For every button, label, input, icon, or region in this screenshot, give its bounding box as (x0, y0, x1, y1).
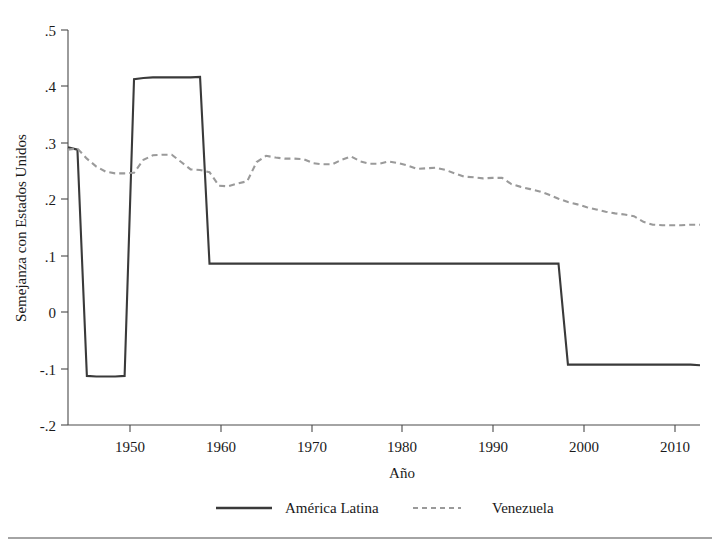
y-tick-label: -.1 (40, 362, 56, 378)
line-chart: Semejanza con Estados Unidos .5 .4 .3 .2… (0, 0, 720, 546)
series-line-america-latina (68, 77, 700, 377)
x-tick-label: 1980 (387, 439, 417, 455)
y-tick-label: -.2 (40, 418, 56, 434)
x-tick-labels: 1950 1960 1970 1980 1990 2000 2010 (115, 439, 690, 455)
x-tick-label: 2000 (569, 439, 599, 455)
figure-container: Semejanza con Estados Unidos .5 .4 .3 .2… (0, 0, 720, 546)
y-axis-title: Semejanza con Estados Unidos (13, 134, 29, 322)
x-tick-marks (130, 425, 675, 432)
y-tick-label: .3 (45, 136, 56, 152)
y-tick-label: .2 (45, 192, 56, 208)
y-tick-label: .1 (45, 249, 56, 265)
y-tick-label: .4 (45, 79, 57, 95)
x-tick-label: 1970 (297, 439, 327, 455)
series-line-venezuela (68, 149, 700, 226)
legend-label-america-latina: América Latina (285, 500, 379, 516)
chart-legend: América Latina Venezuela (216, 500, 554, 516)
x-tick-label: 2010 (660, 439, 690, 455)
x-tick-label: 1990 (478, 439, 508, 455)
y-tick-labels: .5 .4 .3 .2 .1 0 -.1 -.2 (40, 23, 57, 434)
y-tick-label: 0 (49, 305, 57, 321)
x-axis-title: Año (389, 465, 415, 481)
legend-label-venezuela: Venezuela (492, 500, 554, 516)
x-tick-label: 1950 (115, 439, 145, 455)
y-tick-marks (61, 30, 68, 425)
y-tick-label: .5 (45, 23, 56, 39)
x-tick-label: 1960 (206, 439, 236, 455)
